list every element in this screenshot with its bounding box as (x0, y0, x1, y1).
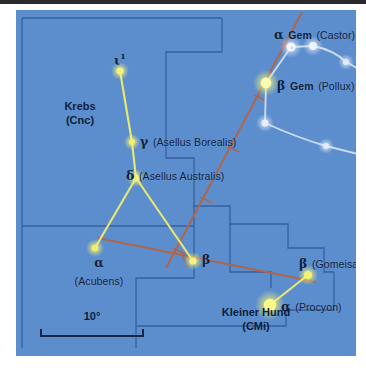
star-label-gamma-cnc: γ (Asellus Borealis) (140, 132, 236, 150)
cancer-name-german: Krebs (64, 100, 95, 112)
star-label-beta-cnc: β (202, 250, 210, 268)
greek-letter-beta-cnc: β (202, 252, 210, 267)
greek-letter-alpha-gem: α (274, 27, 284, 42)
scale-bar-group: 10° (40, 310, 144, 344)
superscript-1: 1 (120, 51, 126, 61)
canis-minor-abbrev: (CMi) (242, 320, 270, 332)
scale-bar-label: 10° (40, 310, 144, 322)
top-border-band (0, 0, 366, 4)
greek-letter-gamma: γ (140, 134, 148, 149)
gemini-star-dots (256, 36, 356, 167)
canis-minor-name-german: Kleiner Hund (222, 306, 290, 318)
star-beta-cnc (189, 257, 196, 264)
star-label-delta-cnc: δ (Asellus Australis) (126, 166, 224, 184)
greek-letter-beta-gem: β (277, 78, 285, 93)
star-alpha-cnc (92, 245, 99, 252)
star-label-beta-gem: β Gem (Pollux) (277, 76, 355, 94)
proper-name-asellus-australis: (Asellus Australis) (139, 170, 224, 182)
proper-name-asellus-borealis: (Asellus Borealis) (153, 136, 237, 148)
bayer-suffix-gem-castor: Gem (288, 29, 312, 41)
proper-name-acubens: (Acubens) (75, 275, 124, 287)
star-label-alpha-gem: α Gem (Castor) (274, 25, 355, 43)
proper-name-pollux: (Pollux) (318, 80, 354, 92)
greek-letter-delta: δ (126, 168, 134, 183)
star-beta-cmi (304, 271, 312, 279)
constellation-name-canis-minor: Kleiner Hund (CMi) (196, 306, 316, 334)
star-label-iota1-cnc: ι1 (114, 51, 126, 69)
scale-bar-rule (40, 329, 144, 337)
star-label-beta-cmi: β (Gomeisa) (299, 254, 356, 272)
star-chart-figure: ι1 γ (Asellus Borealis) δ (Asellus Austr… (0, 0, 366, 375)
star-beta-gem (261, 78, 272, 89)
greek-letter-alpha-cnc: α (94, 255, 104, 270)
bayer-suffix-gem-pollux: Gem (290, 80, 314, 92)
proper-name-gomeisa: (Gomeisa) (312, 258, 356, 270)
sky-map-panel: ι1 γ (Asellus Borealis) δ (Asellus Austr… (16, 10, 356, 356)
star-label-alpha-cnc: α (Acubens) (62, 253, 136, 289)
proper-name-castor: (Castor) (316, 29, 355, 41)
greek-letter-beta-cmi: β (299, 256, 307, 271)
constellation-name-cancer: Krebs (Cnc) (40, 100, 120, 128)
star-gamma-cnc (129, 139, 135, 145)
cancer-abbrev: (Cnc) (66, 114, 94, 126)
